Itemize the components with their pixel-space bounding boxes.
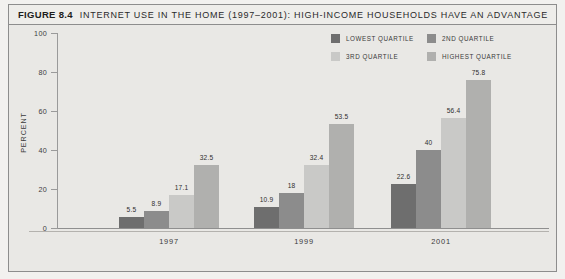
figure-number: FIGURE 8.4 <box>18 9 73 20</box>
bar[interactable] <box>304 165 329 228</box>
figure-title-bar: FIGURE 8.4 INTERNET USE IN THE HOME (199… <box>8 4 557 24</box>
x-axis-category-label: 1999 <box>264 237 344 246</box>
x-axis-category-label: 1997 <box>129 237 209 246</box>
y-axis-tick-label: 40 <box>13 146 47 155</box>
y-axis-tick <box>51 111 58 112</box>
y-axis-tick-label: 60 <box>13 107 47 116</box>
bar[interactable] <box>144 211 169 228</box>
y-axis-line <box>57 33 58 229</box>
y-axis-tick <box>51 189 58 190</box>
y-axis-tick <box>51 228 58 229</box>
bar[interactable] <box>194 165 219 228</box>
bar[interactable] <box>169 195 194 228</box>
x-axis-category-label: 2001 <box>401 237 481 246</box>
figure-container: FIGURE 8.4 INTERNET USE IN THE HOME (199… <box>0 0 565 279</box>
y-axis-tick <box>51 33 58 34</box>
bar[interactable] <box>329 124 354 228</box>
bar[interactable] <box>416 150 441 228</box>
bar-value-label: 53.5 <box>323 113 360 120</box>
y-axis-tick <box>51 150 58 151</box>
plot-area: PERCENT 0204060801005.58.917.132.5199710… <box>9 25 558 273</box>
bar[interactable] <box>119 217 144 228</box>
y-axis-tick-label: 100 <box>13 29 47 38</box>
y-axis-tick <box>51 72 58 73</box>
chart-frame: LOWEST QUARTILE2ND QUARTILE3RD QUARTILEH… <box>8 24 557 272</box>
bar-value-label: 75.8 <box>460 69 497 76</box>
x-axis-line <box>57 228 549 229</box>
bar[interactable] <box>391 184 416 228</box>
y-axis-tick-label: 0 <box>13 224 47 233</box>
bar[interactable] <box>279 193 304 228</box>
y-axis-tick-label: 20 <box>13 185 47 194</box>
x-axis-baseline-rule <box>29 231 549 232</box>
bar[interactable] <box>441 118 466 228</box>
y-axis-tick-label: 80 <box>13 68 47 77</box>
bar-value-label: 32.5 <box>188 154 225 161</box>
bar[interactable] <box>254 207 279 228</box>
page-title: INTERNET USE IN THE HOME (1997–2001): HI… <box>80 10 548 20</box>
bar[interactable] <box>466 80 491 228</box>
